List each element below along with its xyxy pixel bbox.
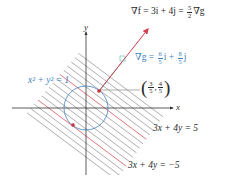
circle-equation-label: x² + y² = 1 bbox=[28, 76, 69, 86]
grad-g-label: ∇g = 65i + 85j bbox=[135, 51, 186, 65]
max-point bbox=[97, 89, 101, 93]
grad-g-mid: i + bbox=[164, 52, 177, 62]
level-line-lower-label: 3x + 4y = −5 bbox=[128, 161, 179, 171]
min-point bbox=[71, 123, 75, 127]
x-axis-label: x bbox=[176, 103, 180, 112]
max-point-label: (35,45) bbox=[141, 78, 170, 97]
grad-g-suffix: j bbox=[184, 52, 187, 62]
grad-f-prefix: ∇f = 3i + 4j = bbox=[131, 6, 186, 16]
lagrange-diagram bbox=[0, 0, 235, 183]
y-axis-label: y bbox=[84, 23, 88, 32]
grad-f-fraction: 52 bbox=[187, 5, 192, 19]
level-line-upper-label: 3x + 4y = 5 bbox=[153, 124, 198, 134]
grad-g-fraction-j: 85 bbox=[178, 51, 183, 65]
grad-g-fraction-i: 65 bbox=[158, 51, 163, 65]
grad-f-label: ∇f = 3i + 4j = 52∇g bbox=[131, 5, 205, 19]
grad-g-prefix: ∇g = bbox=[135, 52, 157, 62]
grad-f-suffix: ∇g bbox=[193, 6, 204, 16]
